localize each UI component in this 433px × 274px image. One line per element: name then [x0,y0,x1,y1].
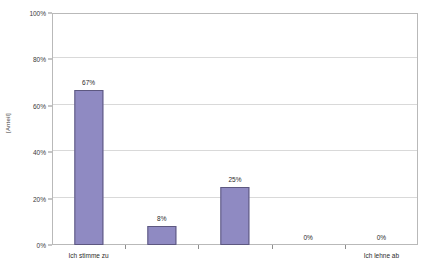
y-tick-label: 40% [33,149,46,156]
x-tick-mark [272,245,273,249]
x-tick-mark [198,245,199,249]
bar-group: 0% [345,13,418,245]
bar-group: 0% [272,13,345,245]
y-tick-label: 100% [29,10,46,17]
x-tick-mark [345,245,346,249]
bar-value-label: 67% [82,79,95,86]
bar-value-label: 0% [377,234,386,241]
bar-group: 25% [198,13,271,245]
y-tick-label: 0% [37,242,46,249]
x-axis-labels: Ich stimme zuIch lehne ab [52,252,418,268]
bar-chart: [Anteil] 0%20%40%60%80%100% 67%8%25%0%0%… [0,0,433,274]
bar[interactable] [220,187,249,245]
bar-value-label: 25% [228,176,241,183]
y-tick-label: 80% [33,56,46,63]
bar-value-label: 0% [303,234,312,241]
x-tick-mark [125,245,126,249]
bar-group: 67% [52,13,125,245]
x-axis-label: Ich lehne ab [364,252,399,259]
bar-value-label: 8% [157,215,166,222]
bar[interactable] [74,90,103,245]
x-axis-ticks [52,245,418,250]
y-axis-ticks: 0%20%40%60%80%100% [0,13,52,245]
bar-group: 8% [125,13,198,245]
x-axis-label: Ich stimme zu [69,252,109,259]
bar[interactable] [147,226,176,245]
y-tick-label: 20% [33,195,46,202]
bars-layer: 67%8%25%0%0% [52,13,418,245]
y-tick-label: 60% [33,102,46,109]
